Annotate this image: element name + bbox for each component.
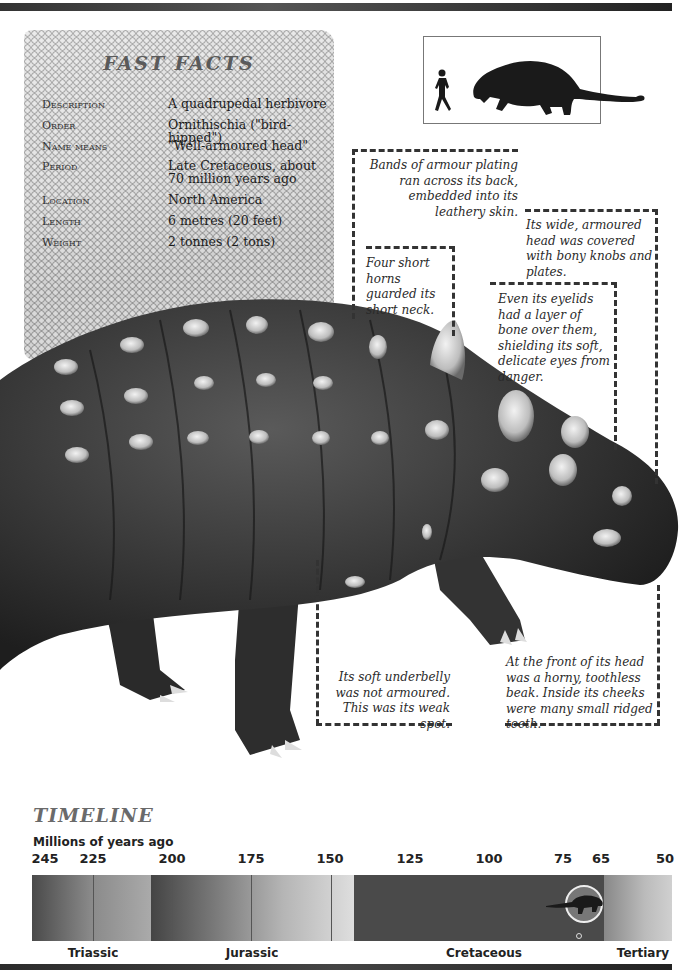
callout-eyelids: Even its eyelids had a layer of bone ove…: [498, 292, 614, 385]
fact-value: 6 metres (20 feet): [168, 214, 328, 228]
tick-label: 245: [31, 851, 58, 866]
fact-label: Location: [42, 193, 168, 207]
timeline-divider: [331, 875, 332, 941]
fact-value: Late Cretaceous, about 70 million years …: [168, 159, 328, 185]
callout-underbelly: Its soft underbelly was not armoured. Th…: [322, 670, 450, 732]
tick-label: 75: [554, 851, 572, 866]
callout-head: Its wide, armoured head was covered with…: [526, 218, 654, 280]
tick-label: 125: [396, 851, 423, 866]
fact-row-weight: Weight 2 tonnes (2 tons): [42, 235, 328, 249]
timeline-divider: [172, 875, 173, 941]
callout-beak-border-right: [657, 585, 660, 725]
bottom-rule: [0, 964, 672, 970]
timeline-subtitle: Millions of years ago: [33, 835, 173, 849]
timeline-divider: [251, 875, 252, 941]
fact-label: Length: [42, 214, 168, 228]
fact-label: Description: [42, 97, 168, 111]
fact-row-name-means: Name means "Well-armoured head": [42, 139, 328, 153]
fact-value: 2 tonnes (2 tons): [168, 235, 328, 249]
timeline-segment-triassic: [32, 875, 151, 941]
timeline-segment-tertiary: [604, 875, 672, 941]
callout-underbelly-border-left: [316, 560, 319, 725]
tick-label: 175: [237, 851, 264, 866]
fact-row-location: Location North America: [42, 193, 328, 207]
marker-dot-icon: [576, 933, 582, 939]
callout-head-border-top: [525, 209, 658, 212]
tick-label: 65: [592, 851, 610, 866]
fact-value: "Well-armoured head": [168, 139, 328, 153]
callout-horns: Four short horns guarded its short neck.: [366, 256, 450, 318]
tick-label: 225: [79, 851, 106, 866]
fact-value: A quadrupedal herbivore: [168, 97, 328, 111]
tick-label: 100: [475, 851, 502, 866]
tick-label: 150: [316, 851, 343, 866]
tick-label: 200: [158, 851, 185, 866]
callout-head-border-right: [655, 209, 658, 484]
timeline-segment-jurassic: [151, 875, 354, 941]
tick-label: 50: [656, 851, 674, 866]
fact-label: Name means: [42, 139, 168, 153]
fast-facts-title: FAST FACTS: [24, 52, 334, 74]
size-comparison-box: [423, 36, 601, 124]
era-label-tertiary: Tertiary: [617, 946, 669, 960]
fact-row-period: Period Late Cretaceous, about 70 million…: [42, 159, 328, 185]
ankylosaur-silhouette-icon: [473, 61, 644, 115]
era-label-jurassic: Jurassic: [226, 946, 279, 960]
era-label-cretaceous: Cretaceous: [446, 946, 522, 960]
callout-armour-bands-border-left: [352, 149, 355, 319]
callout-armour-bands-border-top: [352, 149, 518, 152]
callout-eyelids-border-right: [614, 282, 617, 450]
callout-armour-bands: Bands of armour plating ran across its b…: [362, 158, 518, 220]
human-silhouette-icon: [435, 70, 451, 112]
fact-value: North America: [168, 193, 328, 207]
fact-label: Period: [42, 159, 168, 185]
callout-beak: At the front of its head was a horny, to…: [506, 655, 656, 733]
top-rule: [0, 3, 672, 11]
fact-label: Weight: [42, 235, 168, 249]
fact-row-description: Description A quadrupedal herbivore: [42, 97, 328, 111]
callout-horns-border-right: [452, 246, 455, 336]
callout-eyelids-border-top: [490, 282, 617, 285]
ankylosaur-marker-silhouette-icon: [544, 890, 606, 920]
timeline-title: TIMELINE: [33, 804, 154, 826]
era-label-triassic: Triassic: [68, 946, 119, 960]
callout-horns-border-top: [366, 246, 455, 249]
timeline-divider: [93, 875, 94, 941]
fact-row-length: Length 6 metres (20 feet): [42, 214, 328, 228]
